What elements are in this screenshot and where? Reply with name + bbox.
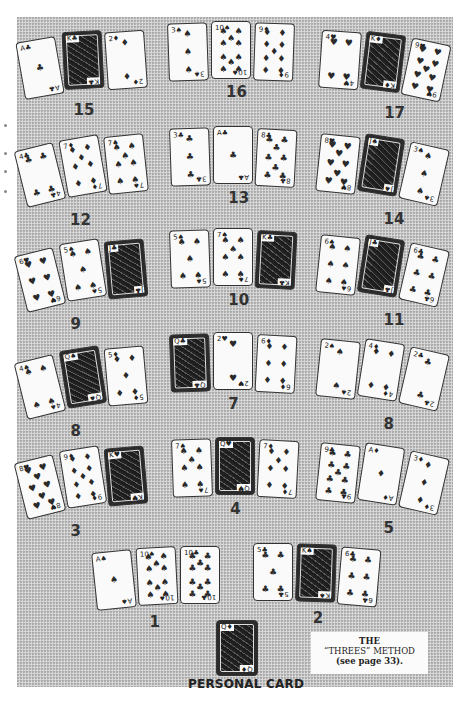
suit-pip-icon: ♥ xyxy=(24,260,34,271)
suit-pip-icon: ♣ xyxy=(430,255,440,266)
playing-card: 9♦9♦♦♦♦♦♦♦♦♦♦ xyxy=(253,22,295,81)
suit-pip-icon: ♠ xyxy=(184,65,192,74)
suit-pip-icon: ♣ xyxy=(361,589,370,599)
suit-pip-icon: ♥ xyxy=(229,373,237,382)
group-number-label: 10 xyxy=(228,291,249,309)
card-index: K♥ xyxy=(131,492,144,500)
suit-pip-icon: ♣ xyxy=(204,564,212,573)
card-index: Q♠ xyxy=(88,393,103,402)
suit-pip-icon: ♠ xyxy=(178,238,186,247)
suit-pip-icon: ♠ xyxy=(78,265,87,275)
suit-pip-icon: ♥ xyxy=(427,73,437,83)
suit-pip-icon: ♣ xyxy=(362,572,371,582)
card-index: Q♠ xyxy=(63,353,78,362)
suit-pip-icon: ♠ xyxy=(179,271,187,280)
card-index: 3♠ xyxy=(171,27,182,34)
suit-pip-icon: ♦ xyxy=(280,343,289,352)
suit-pip-icon: ♥ xyxy=(341,160,350,170)
card-index: A♣ xyxy=(20,44,32,53)
suit-pip-icon: ♦ xyxy=(263,28,271,37)
suit-pip-icon: ♣ xyxy=(188,590,196,599)
suit-pip-icon: ♦ xyxy=(278,28,286,37)
card-index: 2♣ xyxy=(424,397,436,406)
suit-pip-icon: ♠ xyxy=(221,253,229,262)
suit-pip-icon: ♣ xyxy=(186,152,194,161)
suit-pip-icon: ♦ xyxy=(87,478,96,488)
suit-pip-icon: ♣ xyxy=(324,486,333,496)
card-index: Q♣ xyxy=(173,338,187,345)
playing-card: J♣J♣ xyxy=(104,238,149,299)
suit-pip-icon: ♠ xyxy=(110,575,119,585)
playing-card: 9♣9♣♣♣♣♣♣♣♣♣♣ xyxy=(315,442,361,504)
suit-pip-icon: ♣ xyxy=(185,134,193,143)
playing-card: K♣K♣ xyxy=(62,30,105,90)
suit-pip-icon: ♠ xyxy=(339,278,348,288)
suit-pip-icon: ♣ xyxy=(229,151,237,160)
playing-card: 4♥4♥♥♥♥♥ xyxy=(318,30,362,91)
card-index: 3♠ xyxy=(412,146,424,155)
suit-pip-icon: ♣ xyxy=(32,187,42,198)
group-number-label: 14 xyxy=(383,210,404,228)
card-index: K♥ xyxy=(108,451,121,459)
card-index: A♣ xyxy=(217,130,228,137)
suit-pip-icon: ♣ xyxy=(277,551,285,560)
suit-pip-icon: ♥ xyxy=(47,497,57,508)
suit-pip-icon: ♦ xyxy=(113,355,122,365)
suit-pip-icon: ♥ xyxy=(412,70,422,80)
suit-pip-icon: ♣ xyxy=(35,63,45,73)
suit-pip-icon: ♥ xyxy=(343,142,352,152)
suit-pip-icon: ♥ xyxy=(28,483,38,494)
playing-card: 3♠3♠♠♠♠ xyxy=(167,22,209,81)
suit-pip-icon: ♦ xyxy=(278,41,286,50)
group-number-label: 15 xyxy=(73,101,94,119)
playing-card: Q♣Q♣ xyxy=(169,333,211,392)
suit-pip-icon: ♥ xyxy=(430,60,440,70)
suit-pip-icon: ♦ xyxy=(376,469,385,479)
suit-pip-icon: ♣ xyxy=(325,474,334,484)
suit-pip-icon: ♠ xyxy=(235,65,243,74)
playing-card: 8♥8♥♥♥♥♥♥♥♥♥ xyxy=(315,133,361,195)
suit-pip-icon: ♠ xyxy=(146,591,155,600)
suit-pip-icon: ♦ xyxy=(423,460,433,471)
suit-pip-icon: ♣ xyxy=(38,151,48,162)
playing-card: K♣K♣ xyxy=(255,230,298,290)
card-index: Q♣ xyxy=(193,380,207,387)
suit-pip-icon: ♣ xyxy=(204,590,212,599)
group-number-label: 2 xyxy=(313,609,323,627)
playing-card: 10♣10♣♣♣♣♣♣♣♣♣♣♣ xyxy=(180,546,220,604)
suit-pip-icon: ♣ xyxy=(426,271,436,282)
playing-card: 5♣5♣♣♣♣♣♣ xyxy=(253,543,293,601)
suit-pip-icon: ♣ xyxy=(340,476,349,486)
group-number-label: 1 xyxy=(150,613,160,631)
card-index: J♣ xyxy=(368,239,379,248)
card-index: 3♦ xyxy=(412,455,424,464)
card-index: 2♦ xyxy=(133,77,144,85)
card-index: 3♠ xyxy=(424,192,436,201)
caption-line-3: (see page 33). xyxy=(336,656,403,666)
suit-pip-icon: ♦ xyxy=(265,480,274,489)
card-index: K♦ xyxy=(369,35,383,44)
suit-pip-icon: ♥ xyxy=(38,256,48,267)
playing-card: 2♠2♠♠♠ xyxy=(315,338,361,400)
suit-pip-icon: ♦ xyxy=(74,492,83,502)
suit-pip-icon: ♠ xyxy=(193,237,201,246)
suit-pip-icon: ♠ xyxy=(343,244,352,254)
suit-pip-icon: ♣ xyxy=(347,571,356,581)
suit-pip-icon: ♥ xyxy=(329,38,338,48)
card-index: K♦ xyxy=(383,80,397,89)
suit-pip-icon: ♦ xyxy=(89,176,99,186)
suit-pip-icon: ♦ xyxy=(282,448,291,457)
suit-pip-icon: ♠ xyxy=(131,175,140,185)
suit-pip-icon: ♣ xyxy=(263,170,272,179)
playing-card: 7♠7♠♠♠♠♠♠♠♠ xyxy=(171,438,213,497)
card-index: A♦ xyxy=(382,493,394,502)
personal-card: Q♦ Q♦ xyxy=(216,620,258,676)
group-number-label: 8 xyxy=(383,415,393,433)
group-number-label: 3 xyxy=(71,522,81,540)
suit-pip-icon: ♦ xyxy=(279,359,288,368)
suit-pip-icon: ♠ xyxy=(341,261,350,271)
suit-pip-icon: ♠ xyxy=(195,446,203,455)
suit-pip-icon: ♣ xyxy=(342,462,351,472)
suit-pip-icon: ♣ xyxy=(412,268,422,279)
suit-pip-icon: ♣ xyxy=(188,564,196,573)
